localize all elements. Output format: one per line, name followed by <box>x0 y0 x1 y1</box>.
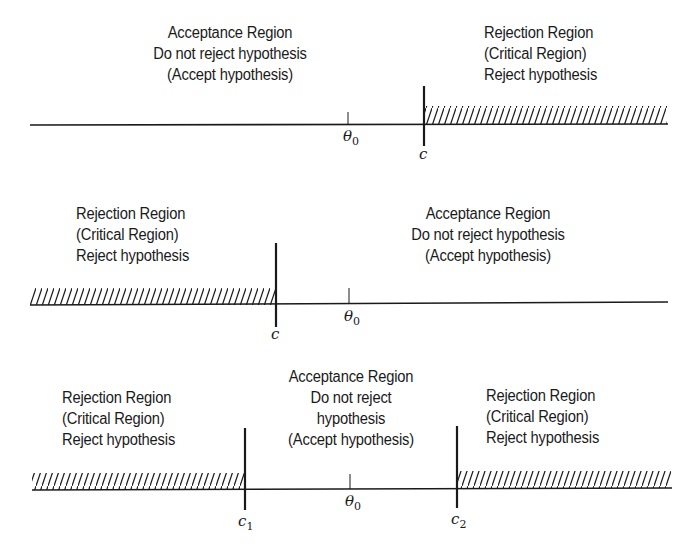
rejection-hatch <box>425 106 667 124</box>
critical-value-c2-label: c2 <box>451 510 466 531</box>
rejection-region-label: Rejection Region (Critical Region) Rejec… <box>76 203 189 266</box>
theta0-label: θ0 <box>343 127 359 148</box>
critical-value-label: c <box>419 145 427 163</box>
acceptance-region-label: Acceptance Region Do not reject hypothes… <box>256 366 446 450</box>
theta0-label: θ0 <box>345 492 361 513</box>
rejection-region-label: Rejection Region (Critical Region) Rejec… <box>484 22 597 85</box>
critical-value-c1-label: c1 <box>238 512 253 533</box>
rejection-hatch <box>30 288 275 305</box>
rejection-region-right-label: Rejection Region (Critical Region) Rejec… <box>486 385 599 448</box>
critical-value-label: c <box>271 325 279 343</box>
rejection-region-left-label: Rejection Region (Critical Region) Rejec… <box>62 387 175 450</box>
axis-line <box>30 124 668 125</box>
theta0-label: θ0 <box>344 307 360 328</box>
rejection-hatch-right <box>458 471 671 488</box>
acceptance-region-label: Acceptance Region Do not reject hypothes… <box>129 22 331 85</box>
hypothesis-test-regions-diagram: Acceptance Region Do not reject hypothes… <box>0 0 688 547</box>
rejection-hatch-left <box>32 473 244 490</box>
acceptance-region-label: Acceptance Region Do not reject hypothes… <box>387 203 589 266</box>
